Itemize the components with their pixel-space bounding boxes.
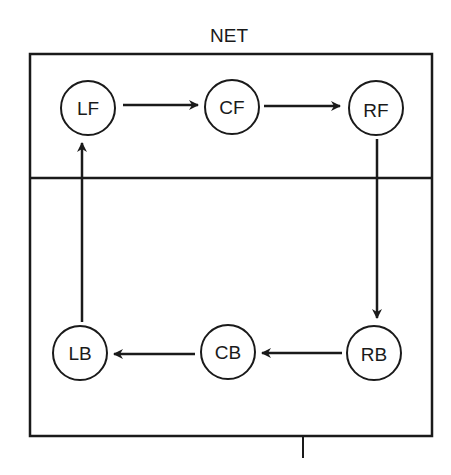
node-label: RF (363, 100, 388, 121)
node-rb: RB (347, 326, 401, 380)
node-label: LF (77, 98, 99, 119)
net-label: NET (210, 25, 248, 46)
node-cf: CF (205, 80, 259, 134)
node-label: CF (219, 97, 244, 118)
node-rf: RF (349, 81, 403, 135)
node-label: CB (215, 342, 241, 363)
node-label: RB (361, 344, 387, 365)
node-lb: LB (53, 326, 107, 380)
node-label: LB (68, 343, 91, 364)
node-cb: CB (201, 325, 255, 379)
node-lf: LF (61, 81, 115, 135)
rotation-diagram: NET LF CF RF RB CB LB (0, 0, 451, 475)
